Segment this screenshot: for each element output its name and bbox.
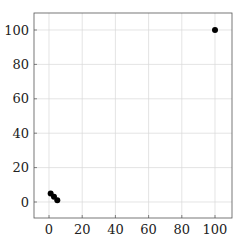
plot-frame bbox=[34, 13, 232, 218]
data-point bbox=[212, 27, 218, 33]
y-tick-label: 20 bbox=[12, 160, 29, 175]
data-point bbox=[54, 197, 60, 203]
y-tick-label: 80 bbox=[12, 57, 29, 72]
x-tick-label: 80 bbox=[174, 222, 191, 237]
data-points bbox=[48, 27, 218, 203]
y-tick-label: 100 bbox=[4, 23, 29, 38]
x-tick-label: 0 bbox=[45, 222, 53, 237]
x-tick-label: 60 bbox=[140, 222, 157, 237]
y-tick-label: 60 bbox=[12, 91, 29, 106]
scatter-chart: 020406080100 020406080100 bbox=[0, 0, 243, 245]
x-tick-label: 20 bbox=[74, 222, 91, 237]
y-axis-ticks: 020406080100 bbox=[4, 23, 37, 210]
y-tick-label: 0 bbox=[21, 195, 29, 210]
grid-lines bbox=[34, 13, 232, 218]
x-tick-label: 40 bbox=[107, 222, 124, 237]
y-tick-label: 40 bbox=[12, 126, 29, 141]
x-tick-label: 100 bbox=[203, 222, 228, 237]
